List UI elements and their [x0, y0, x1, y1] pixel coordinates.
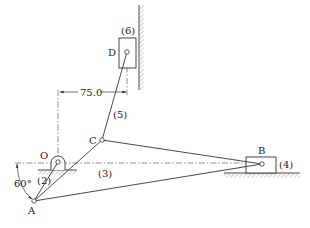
ground-o [38, 170, 77, 175]
label-c: C [89, 135, 97, 146]
mechanism-diagram: 75.0 O A C B D (2) (3) (4) (5) (6) 60° [0, 0, 310, 228]
link-3-cb [102, 140, 262, 164]
label-b: B [258, 145, 265, 156]
label-o: O [40, 150, 48, 161]
joint-b [260, 162, 264, 166]
label-link-4: (4) [279, 159, 293, 170]
dimension-label: 75.0 [80, 87, 102, 98]
joint-d [125, 50, 129, 54]
wall-d [139, 5, 144, 90]
ground-b [224, 173, 300, 178]
label-a: A [27, 205, 36, 216]
label-d: D [108, 47, 116, 58]
joint-o [56, 160, 60, 164]
label-link-6: (6) [121, 25, 135, 36]
label-link-3: (3) [98, 168, 112, 179]
link-5 [102, 52, 127, 140]
joint-c [100, 138, 104, 142]
angle-label: 60° [14, 178, 32, 189]
label-link-2: (2) [37, 175, 51, 186]
label-link-5: (5) [113, 109, 127, 120]
joint-a [32, 199, 36, 203]
dimension-75: 75.0 [60, 87, 126, 98]
